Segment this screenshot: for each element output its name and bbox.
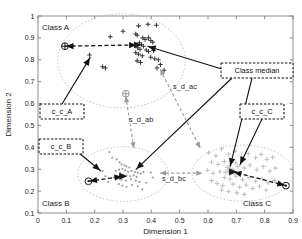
data-point bbox=[102, 170, 104, 172]
data-point bbox=[130, 170, 132, 172]
x-tick-label: 0.1 bbox=[61, 217, 71, 224]
callout-label-class_median: Class median bbox=[235, 66, 280, 75]
data-point bbox=[145, 182, 147, 184]
y-tick-label: 0.2 bbox=[25, 188, 35, 195]
x-tick-label: 0.4 bbox=[146, 217, 156, 224]
data-point bbox=[152, 176, 154, 178]
data-point bbox=[138, 181, 140, 183]
data-point bbox=[124, 169, 126, 171]
median-marker-class-a-sub-median bbox=[122, 90, 129, 97]
x-tick-label: 0 bbox=[36, 217, 40, 224]
y-tick-label: 0.7 bbox=[25, 78, 35, 85]
y-tick-label: 0.9 bbox=[25, 34, 35, 41]
y-tick-label: 0.4 bbox=[25, 144, 35, 151]
data-point bbox=[134, 171, 136, 173]
y-tick-label: 0.3 bbox=[25, 166, 35, 173]
data-point bbox=[121, 168, 123, 170]
x-tick-label: 0.9 bbox=[288, 217, 298, 224]
data-point bbox=[115, 170, 117, 172]
x-tick-label: 0.7 bbox=[231, 217, 241, 224]
data-point bbox=[121, 163, 123, 165]
x-tick-label: 0.5 bbox=[175, 217, 185, 224]
data-point bbox=[150, 171, 152, 173]
data-point bbox=[121, 185, 123, 187]
data-point bbox=[127, 171, 129, 173]
data-point bbox=[118, 169, 120, 171]
callout-label-c_c_A: c_c_A bbox=[52, 107, 73, 116]
y-tick-label: 0.1 bbox=[25, 210, 35, 217]
data-point bbox=[116, 158, 118, 160]
data-point bbox=[142, 171, 144, 173]
data-point bbox=[104, 175, 106, 177]
data-point bbox=[129, 175, 131, 177]
class-c-label: Class C bbox=[243, 199, 271, 208]
y-tick-label: 0.5 bbox=[25, 122, 35, 129]
y-tick-label: 0.6 bbox=[25, 100, 35, 107]
data-point bbox=[141, 188, 143, 190]
callout-c_c_C[interactable]: c_c_C bbox=[240, 104, 284, 119]
figure-panel: 00.10.20.30.40.50.60.70.80.9 0.10.20.30.… bbox=[0, 0, 302, 239]
distance-label-s_d_ac: s_d_ac bbox=[173, 82, 197, 91]
x-tick-label: 0.3 bbox=[118, 217, 128, 224]
callout-label-c_c_B: c_c_B bbox=[51, 142, 72, 151]
callout-c_c_B[interactable]: c_c_B bbox=[39, 139, 83, 154]
y-tick-label: 0.8 bbox=[25, 56, 35, 63]
data-point bbox=[136, 176, 138, 178]
callout-c_c_A[interactable]: c_c_A bbox=[40, 104, 84, 119]
x-tick-label: 0.8 bbox=[260, 217, 270, 224]
data-point bbox=[135, 180, 137, 182]
data-point bbox=[107, 181, 109, 183]
distance-label-s_d_bc: s_d_bc bbox=[162, 174, 186, 183]
y-tick-label: 1 bbox=[31, 13, 35, 20]
scatter-plot: 00.10.20.30.40.50.60.70.80.9 0.10.20.30.… bbox=[0, 0, 302, 239]
data-point bbox=[119, 161, 121, 163]
data-point bbox=[125, 166, 127, 168]
data-point bbox=[121, 179, 123, 181]
x-tick-label: 0.6 bbox=[203, 217, 213, 224]
callout-label-c_c_C: c_c_C bbox=[252, 107, 274, 116]
data-point bbox=[137, 185, 139, 187]
callout-class_median[interactable]: Class median bbox=[221, 63, 293, 78]
data-point bbox=[128, 166, 130, 168]
class-b-label: Class B bbox=[42, 199, 70, 208]
data-point bbox=[125, 186, 127, 188]
data-point bbox=[137, 172, 139, 174]
distance-label-s_d_ab: s_d_ab bbox=[129, 115, 153, 124]
data-point bbox=[131, 184, 133, 186]
class-a-label: Class A bbox=[42, 23, 70, 32]
data-point bbox=[118, 183, 120, 185]
data-point bbox=[123, 164, 125, 166]
data-point bbox=[111, 157, 113, 159]
data-point bbox=[130, 178, 132, 180]
centroid-marker-c_c_A bbox=[62, 43, 69, 50]
data-point bbox=[108, 151, 110, 153]
data-point bbox=[125, 180, 127, 182]
data-point bbox=[133, 174, 135, 176]
x-axis-label: Dimension 1 bbox=[143, 227, 188, 236]
y-axis-label: Dimension 2 bbox=[4, 92, 13, 137]
x-tick-label: 0.2 bbox=[90, 217, 100, 224]
data-point bbox=[140, 173, 142, 175]
